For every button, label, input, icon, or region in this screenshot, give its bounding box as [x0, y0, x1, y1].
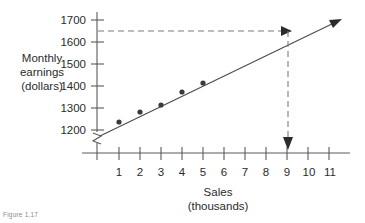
x-tick-label-11: 11	[324, 166, 336, 178]
data-point	[158, 102, 163, 107]
data-point	[200, 80, 205, 85]
x-tick-label-2: 2	[137, 166, 143, 178]
y-tick-label-1500: 1500	[60, 58, 86, 70]
y-tick-label-1200: 1200	[60, 124, 86, 136]
data-point	[179, 89, 184, 94]
x-tick-label-8: 8	[263, 166, 269, 178]
x-tick-label-9: 9	[284, 166, 290, 178]
y-tick-label-1400: 1400	[60, 80, 86, 92]
data-point	[137, 109, 142, 114]
x-tick-label-7: 7	[242, 166, 248, 178]
y-tick-label-1600: 1600	[60, 36, 86, 48]
prediction-horizontal-arrowhead	[281, 26, 292, 36]
y-axis-title-line1: Monthly	[22, 52, 63, 64]
y-axis-break-icon	[93, 133, 101, 144]
data-point	[116, 119, 121, 124]
x-tick-label-1: 1	[116, 166, 122, 178]
x-tick-label-10: 10	[303, 166, 316, 178]
y-tick-label-1300: 1300	[60, 102, 86, 114]
x-tick-label-3: 3	[158, 166, 164, 178]
x-tick-label-5: 5	[200, 166, 206, 178]
figure-container: 1700 1600 1500 1400 1300 1200 Monthly ea…	[0, 0, 365, 223]
x-axis-title: Sales	[204, 186, 233, 198]
scatterplot: 1700 1600 1500 1400 1300 1200 Monthly ea…	[0, 0, 365, 223]
x-tick-label-6: 6	[221, 166, 227, 178]
y-tick-label-1700: 1700	[60, 14, 86, 26]
y-axis-title-line3: (dollars)	[21, 80, 63, 92]
trend-line	[100, 22, 336, 136]
prediction-vertical-arrowhead	[283, 137, 293, 150]
y-axis-title-line2: earnings	[20, 66, 64, 78]
trend-line-arrowhead	[329, 19, 342, 28]
figure-caption: Figure 1.17	[3, 211, 38, 218]
x-axis-title-units: (thousands)	[188, 200, 249, 212]
x-tick-label-4: 4	[179, 166, 186, 178]
